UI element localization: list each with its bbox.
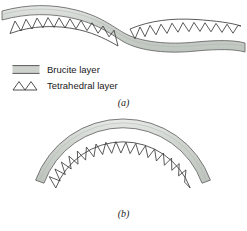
legend-label-brucite: Brucite layer bbox=[47, 64, 100, 75]
figure-container: Brucite layer Tetrahedral layer (a) bbox=[0, 0, 247, 231]
gray-band-swatch-icon bbox=[12, 64, 40, 75]
legend: Brucite layer Tetrahedral layer bbox=[12, 62, 162, 94]
panel-b-caption: (b) bbox=[0, 208, 247, 219]
triangles-swatch-icon bbox=[12, 80, 40, 91]
tetrahedral-layer-a-right bbox=[130, 19, 241, 39]
brucite-band-b bbox=[36, 119, 211, 183]
legend-label-tetrahedral: Tetrahedral layer bbox=[47, 80, 118, 91]
legend-item-brucite: Brucite layer bbox=[12, 62, 162, 77]
legend-item-tetrahedral: Tetrahedral layer bbox=[12, 78, 162, 93]
panel-a-caption: (a) bbox=[0, 97, 247, 108]
tetrahedral-layer-b bbox=[49, 142, 190, 188]
panel-b-diagram bbox=[0, 112, 247, 207]
